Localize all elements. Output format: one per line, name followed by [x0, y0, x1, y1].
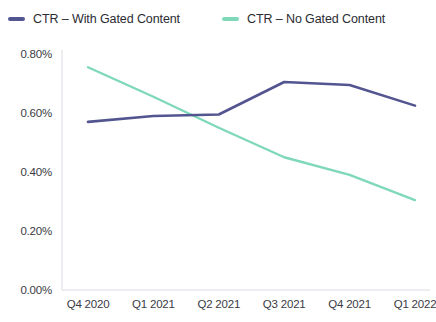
legend-item-with-gated-content[interactable]: CTR – With Gated Content	[8, 8, 180, 30]
x-axis-tick-label: Q4 2021	[328, 298, 371, 310]
legend-item-no-gated-content[interactable]: CTR – No Gated Content	[222, 8, 385, 30]
x-axis: Q4 2020Q1 2021Q2 2021Q3 2021Q4 2021Q1 20…	[0, 36, 436, 322]
legend-swatch-icon-series-1	[222, 17, 239, 21]
legend-label-series-1: CTR – No Gated Content	[247, 12, 385, 26]
x-axis-tick-label: Q1 2021	[132, 298, 175, 310]
legend-label-series-0: CTR – With Gated Content	[33, 12, 180, 26]
plot-area: 0.80%0.60%0.40%0.20%0.00% Q4 2020Q1 2021…	[0, 36, 436, 322]
legend-swatch-icon-series-0	[8, 17, 25, 21]
x-axis-tick-label: Q3 2021	[263, 298, 306, 310]
x-axis-tick-label: Q4 2020	[67, 298, 110, 310]
x-axis-tick-label: Q2 2021	[197, 298, 240, 310]
chart-legend: CTR – With Gated Content CTR – No Gated …	[6, 8, 430, 30]
x-axis-tick-label: Q1 2022	[394, 298, 436, 310]
ctr-line-chart: CTR – With Gated Content CTR – No Gated …	[0, 0, 436, 322]
